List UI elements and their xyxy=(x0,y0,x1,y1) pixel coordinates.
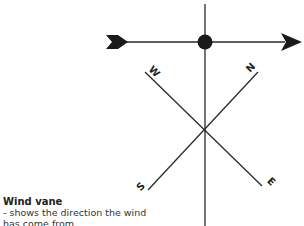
caption: Wind vane - shows the direction the wind… xyxy=(3,196,203,226)
wind-vane-diagram: W N S E xyxy=(0,0,304,226)
compass-label-south: S xyxy=(134,180,147,193)
north-south-arm xyxy=(148,72,258,190)
pivot-dot xyxy=(198,35,213,50)
arrow-tail-icon xyxy=(106,35,128,49)
compass-label-north: N xyxy=(244,61,258,75)
caption-line-1: - shows the direction the wind xyxy=(3,207,203,218)
compass-label-east: E xyxy=(265,175,278,188)
caption-line-2: has come from xyxy=(3,218,203,226)
caption-title: Wind vane xyxy=(3,196,203,207)
west-east-arm xyxy=(145,72,262,186)
compass-label-west: W xyxy=(147,64,163,80)
